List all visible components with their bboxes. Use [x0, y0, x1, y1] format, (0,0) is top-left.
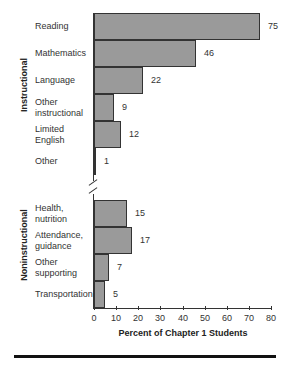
bar-value-label: 5 [113, 289, 118, 299]
category-label: Mathematics [35, 48, 86, 59]
x-tick [183, 306, 184, 310]
x-tick-label: 10 [106, 313, 126, 323]
bar-value-label: 9 [122, 102, 127, 112]
x-tick [138, 306, 139, 310]
bar [94, 94, 114, 121]
bar [94, 227, 132, 254]
group-label-noninstructional: Noninstructional [19, 205, 29, 285]
x-tick [160, 306, 161, 310]
bar-value-label: 15 [135, 208, 145, 218]
category-label: Transportation [35, 289, 93, 300]
axis-break-mark [89, 179, 98, 186]
x-tick-label: 80 [261, 313, 281, 323]
x-tick-label: 70 [239, 313, 259, 323]
x-tick [94, 306, 95, 310]
category-label: Otherinstructional [35, 97, 83, 119]
category-label: Language [35, 75, 75, 86]
bar-value-label: 12 [129, 129, 139, 139]
x-axis-title: Percent of Chapter 1 Students [93, 328, 273, 338]
bar [94, 40, 196, 67]
x-tick-label: 60 [217, 313, 237, 323]
bar-value-label: 17 [140, 235, 150, 245]
x-tick [205, 306, 206, 310]
category-label: Othersupporting [35, 257, 77, 279]
bar-value-label: 22 [151, 75, 161, 85]
category-label: Reading [35, 21, 69, 32]
x-tick-label: 50 [195, 313, 215, 323]
bar [94, 67, 143, 94]
group-label-instructional: Instructional [19, 55, 29, 115]
x-tick-label: 0 [84, 313, 104, 323]
category-label: Other [35, 156, 58, 167]
x-tick [116, 306, 117, 310]
bar-value-label: 7 [117, 262, 122, 272]
bottom-rule [14, 355, 276, 358]
bar [94, 281, 105, 308]
bar [94, 200, 127, 227]
x-tick [271, 306, 272, 310]
x-tick-label: 30 [150, 313, 170, 323]
x-tick [249, 306, 250, 310]
category-label: LimitedEnglish [35, 124, 65, 146]
bar-value-label: 75 [268, 21, 278, 31]
bar-value-label: 1 [104, 156, 109, 166]
category-label: Health,nutrition [35, 203, 67, 225]
bar [94, 254, 109, 281]
bar [94, 121, 121, 148]
x-tick-label: 40 [173, 313, 193, 323]
x-tick [227, 306, 228, 310]
category-label: Attendance,guidance [35, 230, 83, 252]
bar [94, 148, 96, 175]
bar-value-label: 46 [204, 48, 214, 58]
x-tick-label: 20 [128, 313, 148, 323]
axis-break-mark [89, 187, 98, 194]
bar [94, 13, 260, 40]
